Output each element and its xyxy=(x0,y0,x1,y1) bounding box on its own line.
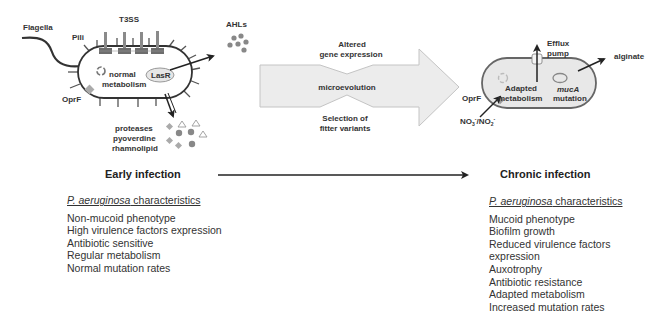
label-mutation: mutation xyxy=(553,94,587,103)
chronic-characteristics: P. aeruginosa characteristics Mucoid phe… xyxy=(489,195,622,313)
list-item: Regular metabolism xyxy=(67,249,222,262)
early-characteristics-title: P. aeruginosa characteristics xyxy=(67,194,222,207)
label-normal: normal xyxy=(109,70,136,79)
list-item: Normal mutation rates xyxy=(67,262,222,275)
chronic-infection-heading: Chronic infection xyxy=(500,168,590,180)
species-name: P. aeruginosa xyxy=(489,195,552,207)
ahl-molecules-icon xyxy=(227,33,248,52)
chronic-characteristics-list: Mucoid phenotype Biofilm growth Reduced … xyxy=(489,213,622,314)
label-altered: Altered xyxy=(338,40,366,49)
label-pyoverdine: pyoverdine xyxy=(113,134,156,143)
label-t3ss: T3SS xyxy=(119,15,140,24)
label-microevolution: microevolution xyxy=(318,83,375,92)
label-fitter-variants: fitter variants xyxy=(320,124,371,133)
label-rhamnolipid: rhamnolipid xyxy=(112,144,158,153)
list-item: Auxotrophy xyxy=(489,263,622,276)
label-muca: mucA xyxy=(557,85,579,94)
early-bacterium: normal metabolism LasR xyxy=(22,31,213,116)
label-adapted: Adapted xyxy=(505,84,537,93)
early-characteristics: P. aeruginosa characteristics Non-mucoid… xyxy=(67,194,222,275)
label-oprf-early: OprF xyxy=(62,95,81,104)
chronic-characteristics-title: P. aeruginosa characteristics xyxy=(489,195,622,208)
label-pump: pump xyxy=(547,49,569,58)
label-nitrate: NO3-/NO2- xyxy=(460,116,495,127)
label-alginate: alginate xyxy=(614,52,645,61)
list-item: Reduced virulence factors xyxy=(489,238,622,251)
list-item: High virulence factors expression xyxy=(67,224,222,237)
label-efflux: Efflux xyxy=(547,39,570,48)
list-item: Non-mucoid phenotype xyxy=(67,212,222,225)
label-metabolism: metabolism xyxy=(102,80,146,89)
list-item: Mucoid phenotype xyxy=(489,213,622,226)
list-item: Antibiotic resistance xyxy=(489,276,622,289)
characteristics-suffix: characteristics xyxy=(130,194,200,206)
list-item: Biofilm growth xyxy=(489,225,622,238)
list-item: Adapted metabolism xyxy=(489,288,622,301)
label-pili: Pili xyxy=(72,33,84,42)
label-flagella: Flagella xyxy=(23,23,53,32)
secreted-products-icon xyxy=(166,120,207,149)
species-name: P. aeruginosa xyxy=(67,194,130,206)
early-infection-heading: Early infection xyxy=(105,168,181,180)
label-selection-of: Selection of xyxy=(322,114,368,123)
list-item: expression xyxy=(489,250,622,263)
list-item: Increased mutation rates xyxy=(489,301,622,314)
label-ahls: AHLs xyxy=(226,20,247,29)
label-lasr: LasR xyxy=(151,71,171,80)
label-proteases: proteases xyxy=(115,124,153,133)
label-gene-expression: gene expression xyxy=(319,50,382,59)
label-metabolism-chronic: metabolism xyxy=(498,94,542,103)
chronic-bacterium xyxy=(480,46,604,117)
characteristics-suffix: characteristics xyxy=(552,195,622,207)
early-characteristics-list: Non-mucoid phenotype High virulence fact… xyxy=(67,212,222,275)
list-item: Antibiotic sensitive xyxy=(67,237,222,250)
label-oprf-chronic: OprF xyxy=(462,94,481,103)
